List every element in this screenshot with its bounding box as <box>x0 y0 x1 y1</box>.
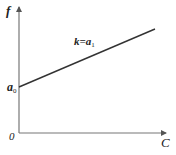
slope-subscript: 1 <box>91 41 95 49</box>
slope-prefix: k= <box>74 35 86 47</box>
linear-relationship-diagram <box>0 0 176 155</box>
origin-label: 0 <box>9 131 15 142</box>
intercept-subscript: 0 <box>13 87 17 95</box>
x-axis-label: C <box>161 136 170 149</box>
y-axis-label: f <box>6 4 10 17</box>
intercept-label: a0 <box>7 81 17 95</box>
slope-label: k=a1 <box>74 36 95 49</box>
